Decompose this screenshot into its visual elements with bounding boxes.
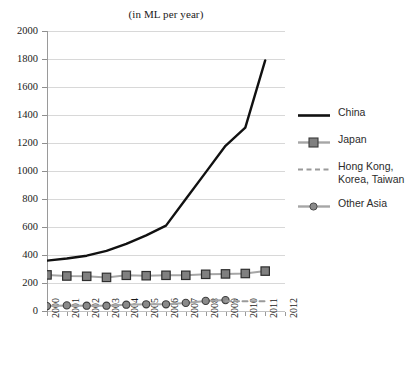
series-line-china (47, 60, 265, 260)
series-layer (47, 31, 285, 312)
x-axis-tick-mark (265, 312, 266, 316)
legend-label-other-asia: Other Asia (338, 197, 387, 210)
data-point-marker (182, 299, 189, 306)
y-axis-tick-label: 0 (4, 306, 38, 317)
data-point-marker (63, 302, 70, 309)
legend-swatch-hong-kong-icon (297, 162, 331, 175)
legend-label-hong-kong-line2: Korea, Taiwan (338, 173, 404, 185)
chart-figure: (in ML per year) 02004006008001000120014… (0, 0, 413, 369)
data-point-marker (122, 271, 130, 279)
data-point-marker (63, 272, 71, 280)
data-point-marker (47, 271, 51, 279)
x-axis-tick-mark (47, 312, 48, 316)
data-point-marker (47, 303, 51, 310)
data-point-marker (142, 272, 150, 280)
legend-label-china: China (338, 106, 365, 119)
x-axis-tick-mark (126, 312, 127, 316)
data-point-marker (221, 270, 229, 278)
x-axis-tick-mark (107, 312, 108, 316)
legend-item-other-asia[interactable]: Other Asia (297, 197, 409, 212)
data-point-marker (123, 301, 130, 308)
x-axis-tick-mark (206, 312, 207, 316)
y-axis-tick-label: 1000 (4, 166, 38, 177)
data-point-marker (261, 267, 269, 275)
data-point-marker (83, 272, 91, 280)
x-axis-tick-mark (285, 312, 286, 316)
data-point-marker (202, 297, 209, 304)
x-axis-tick-mark (67, 312, 68, 316)
x-axis-tick-mark (87, 312, 88, 316)
legend-swatch-china-icon (297, 108, 331, 121)
y-axis-tick-label: 200 (4, 278, 38, 289)
data-point-marker (83, 302, 90, 309)
y-axis-tick-label: 1600 (4, 82, 38, 93)
y-axis-tick-label: 1200 (4, 138, 38, 149)
x-axis-tick-mark (166, 312, 167, 316)
y-axis-tick-label: 400 (4, 250, 38, 261)
y-axis-tick-label: 1400 (4, 110, 38, 121)
chart-title: (in ML per year) (47, 8, 285, 20)
legend-label-hong-kong-line1: Hong Kong, (338, 160, 393, 172)
x-axis-tick-label: 2012 (289, 298, 299, 318)
legend-item-china[interactable]: China (297, 106, 409, 121)
data-point-marker (222, 297, 229, 304)
data-point-marker (102, 273, 110, 281)
y-axis-tick-label: 600 (4, 222, 38, 233)
legend-label-hong-kong: Hong Kong, Korea, Taiwan (338, 160, 404, 185)
legend-swatch-japan-icon (297, 135, 331, 148)
data-point-marker (103, 302, 110, 309)
y-axis-tick-label: 1800 (4, 54, 38, 65)
series-line-other-asia (47, 300, 226, 306)
legend-item-hong-kong-korea-taiwan[interactable]: Hong Kong, Korea, Taiwan (297, 160, 409, 185)
data-point-marker (162, 271, 170, 279)
data-point-marker (143, 301, 150, 308)
x-axis-tick-mark (226, 312, 227, 316)
y-axis-tick-label: 800 (4, 194, 38, 205)
data-point-marker (162, 301, 169, 308)
data-point-marker (202, 270, 210, 278)
x-axis-tick-mark (146, 312, 147, 316)
legend-label-japan: Japan (338, 133, 367, 146)
legend-swatch-other-asia-icon (297, 199, 331, 212)
chart-legend: China Japan Hong Kong, Korea, Taiwan (297, 106, 409, 224)
y-axis-tick-label: 2000 (4, 26, 38, 37)
legend-item-japan[interactable]: Japan (297, 133, 409, 148)
series-line-japan (47, 271, 265, 277)
x-axis-tick-mark (186, 312, 187, 316)
data-point-marker (241, 269, 249, 277)
data-point-marker (182, 271, 190, 279)
x-axis-tick-mark (245, 312, 246, 316)
